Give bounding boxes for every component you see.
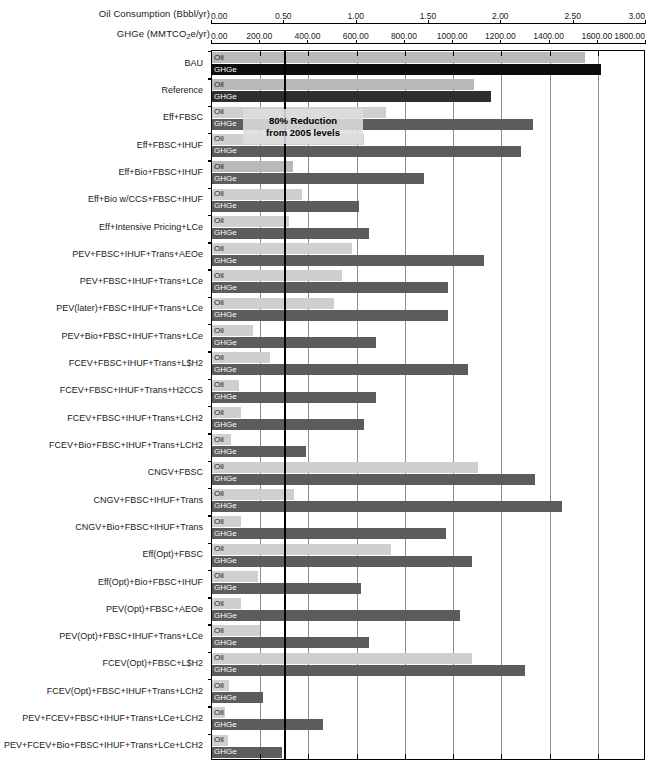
category-label: PEV+FCEV+Bio+FBSC+IHUF+Trans+LCe+LCH2 <box>4 741 203 750</box>
bar-ghge[interactable] <box>212 255 484 266</box>
reduction-target-line <box>284 51 286 759</box>
axis-inner-tick-top <box>260 51 261 56</box>
bar-ghge[interactable] <box>212 64 601 75</box>
bar-oil[interactable] <box>212 79 474 90</box>
category-label: FCEV(Opt)+FBSC+L$H2 <box>102 659 203 668</box>
category-label: Eff+Bio+FBSC+IHUF <box>118 168 203 177</box>
bar-row: OilGHGe <box>212 51 644 78</box>
category-label: PEV+FCEV+FBSC+IHUF+Trans+LCe+LCH2 <box>22 714 203 723</box>
bar-label-ghge: GHGe <box>214 339 237 347</box>
axis-inner-tick-bottom <box>308 754 309 759</box>
bar-oil[interactable] <box>212 653 472 664</box>
bar-label-oil: Oil <box>214 409 224 417</box>
category-label: FCEV+FBSC+IHUF+Trans+L$H2 <box>69 359 203 368</box>
category-label: Reference <box>161 86 203 95</box>
ghge-axis-tick-label: 1200.00 <box>485 31 516 41</box>
axis-inner-tick-bottom <box>550 754 551 759</box>
bar-ghge[interactable] <box>212 528 446 539</box>
bar-row: OilGHGe <box>212 160 644 187</box>
bar-oil[interactable] <box>212 161 293 172</box>
category-axis-tick <box>208 188 212 189</box>
ghge-axis-title-post: e/yr) <box>191 28 211 39</box>
axis-inner-tick-top <box>405 51 406 56</box>
bar-label-oil: Oil <box>214 545 224 553</box>
bar-oil[interactable] <box>212 544 391 555</box>
annotation-line-2: from 2005 levels <box>266 127 340 139</box>
bar-row: OilGHGe <box>212 461 644 488</box>
bar-label-ghge: GHGe <box>214 530 237 538</box>
bar-label-oil: Oil <box>214 354 224 362</box>
axis-inner-tick-top <box>357 51 358 56</box>
bar-row: OilGHGe <box>212 297 644 324</box>
category-label: Eff(Opt)+Bio+FBSC+IHUF <box>98 578 203 587</box>
bar-label-oil: Oil <box>214 682 224 690</box>
bar-label-ghge: GHGe <box>214 502 237 510</box>
bar-label-ghge: GHGe <box>214 666 237 674</box>
bar-label-oil: Oil <box>214 436 224 444</box>
bar-row: OilGHGe <box>212 515 644 542</box>
bar-ghge[interactable] <box>212 665 525 676</box>
bar-label-ghge: GHGe <box>214 147 237 155</box>
bar-label-oil: Oil <box>214 490 224 498</box>
bar-label-ghge: GHGe <box>214 421 237 429</box>
category-label-column: BAUReferenceEff+FBSCEff+FBSC+IHUFEff+Bio… <box>0 50 207 760</box>
bar-label-oil: Oil <box>214 299 224 307</box>
category-axis-tick <box>208 570 212 571</box>
bar-ghge[interactable] <box>212 146 521 157</box>
bar-ghge[interactable] <box>212 173 424 184</box>
ghge-axis-tick-label: 200.00 <box>246 31 272 41</box>
oil-axis-tick-label: 1.50 <box>420 11 437 21</box>
bar-row: OilGHGe <box>212 406 644 433</box>
bar-row: OilGHGe <box>212 379 644 406</box>
bar-label-ghge: GHGe <box>214 66 237 74</box>
bar-label-ghge: GHGe <box>214 721 237 729</box>
ghge-axis-tick-label: 800.00 <box>391 31 417 41</box>
bar-oil[interactable] <box>212 189 302 200</box>
bar-ghge[interactable] <box>212 364 468 375</box>
category-axis-tick <box>208 679 212 680</box>
bar-ghge[interactable] <box>212 474 535 485</box>
bar-ghge[interactable] <box>212 310 448 321</box>
bar-label-ghge: GHGe <box>214 311 237 319</box>
oil-axis-tick-label: 3.00 <box>628 11 645 21</box>
oil-axis-tick-label: 0.50 <box>275 11 292 21</box>
axis-inner-tick-top <box>308 51 309 56</box>
bar-oil[interactable] <box>212 270 342 281</box>
category-axis-tick <box>208 488 212 489</box>
bar-oil[interactable] <box>212 462 478 473</box>
category-label: Eff+FBSC <box>163 113 203 122</box>
category-axis-tick <box>208 461 212 462</box>
bar-oil[interactable] <box>212 298 334 309</box>
category-label: PEV+FBSC+IHUF+Trans+LCe <box>80 277 203 286</box>
plot-area: OilGHGeOilGHGeOilGHGeOilGHGeOilGHGeOilGH… <box>211 50 645 760</box>
ghge-axis-scale: 0.00200.00400.00600.00800.001000.001200.… <box>211 26 645 44</box>
bar-ghge[interactable] <box>212 610 460 621</box>
bar-label-oil: Oil <box>214 518 224 526</box>
category-axis-tick <box>208 160 212 161</box>
bar-oil[interactable] <box>212 243 352 254</box>
bar-label-oil: Oil <box>214 627 224 635</box>
oil-axis-scale: 0.000.501.001.502.002.503.00 <box>211 6 645 24</box>
bar-ghge[interactable] <box>212 282 448 293</box>
bar-label-ghge: GHGe <box>214 120 237 128</box>
reduction-target-annotation: 80% Reduction from 2005 levels <box>243 109 363 144</box>
category-axis-tick <box>208 51 212 52</box>
bar-label-ghge: GHGe <box>214 229 237 237</box>
bar-row: OilGHGe <box>212 597 644 624</box>
bar-label-oil: Oil <box>214 600 224 608</box>
bar-oil[interactable] <box>212 52 585 63</box>
bar-ghge[interactable] <box>212 556 472 567</box>
category-label: FCEV(Opt)+FBSC+IHUF+Trans+LCH2 <box>47 687 203 696</box>
bar-ghge[interactable] <box>212 91 491 102</box>
bar-label-oil: Oil <box>214 135 224 143</box>
category-label: Eff(Opt)+FBSC <box>142 550 203 559</box>
bar-label-ghge: GHGe <box>214 639 237 647</box>
bar-ghge[interactable] <box>212 501 562 512</box>
ghge-axis-title: GHGe (MMTCO2e/yr) <box>117 28 210 39</box>
bar-oil[interactable] <box>212 489 294 500</box>
bar-label-oil: Oil <box>214 709 224 717</box>
bar-row: OilGHGe <box>212 78 644 105</box>
category-axis-tick <box>208 133 212 134</box>
category-label: PEV+Bio+FBSC+IHUF+Trans+LCe <box>62 332 203 341</box>
category-axis-tick <box>208 242 212 243</box>
